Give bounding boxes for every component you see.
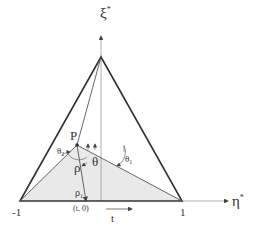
eta-axis-label: η*: [232, 193, 244, 209]
xi-axis-label: ξ*: [100, 5, 111, 21]
rho-label: ρ: [74, 160, 81, 175]
base-point-label: (t, 0): [73, 204, 89, 213]
theta2-label: θ2: [57, 146, 64, 157]
line-p-apex: [77, 57, 101, 145]
right-vertex-label: 1: [180, 206, 186, 218]
point-p: [75, 143, 79, 147]
point-p-label: P: [70, 128, 77, 143]
left-vertex-label: -1: [12, 206, 21, 218]
diagram-canvas: ξ* η* P -1 1 (t, 0) θ ρ θ2 θ1 ρ1 t: [0, 0, 258, 229]
t-label: t: [111, 212, 114, 224]
theta-label: θ: [92, 154, 98, 169]
theta1-label: θ1: [125, 154, 132, 165]
